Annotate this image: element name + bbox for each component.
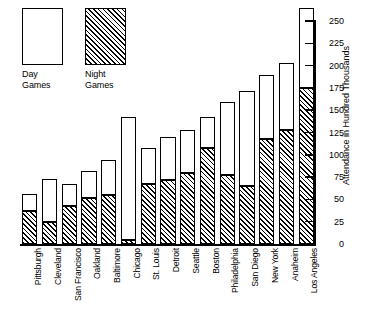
x-axis-label: Boston: [211, 248, 221, 274]
x-axis-label: New York: [270, 248, 280, 283]
x-axis-label: St. Louis: [151, 248, 161, 280]
x-axis-label: Baltimore: [112, 248, 122, 283]
y-tick-mark: [305, 243, 316, 245]
x-axis-label: Anaheim: [290, 248, 300, 281]
bar-segment-night-games: [101, 195, 116, 244]
y-tick-label: 0: [320, 239, 344, 249]
x-axis-label: Cleveland: [53, 248, 63, 285]
x-axis-label: San Diego: [250, 248, 260, 287]
x-axis-label: Chicago: [132, 248, 142, 278]
bar-segment-day-games: [62, 184, 77, 206]
bar-segment-night-games: [42, 222, 57, 244]
x-axis-label: San Francisco: [73, 248, 83, 301]
x-axis-label: Philadelphia: [230, 248, 240, 293]
bars-container: [20, 20, 316, 244]
bar-segment-day-games: [22, 194, 37, 212]
bar-segment-night-games: [259, 139, 274, 244]
bar-segment-day-games: [239, 91, 254, 186]
bar-group: [160, 137, 175, 244]
y-tick-label: 25: [320, 217, 344, 227]
bar-group: [42, 179, 57, 244]
x-axis-label: Detroit: [171, 248, 181, 272]
y-tick-mark: [305, 132, 316, 134]
y-tick-mark: [305, 20, 316, 22]
bar-group: [239, 91, 254, 244]
bar-segment-night-games: [141, 184, 156, 245]
bar-group: [22, 194, 37, 245]
bar-segment-day-games: [101, 160, 116, 196]
bar-segment-night-games: [200, 148, 215, 244]
y-axis-title: Attendance in Hundred Thousands: [341, 46, 351, 185]
x-axis-label: Los Angeles: [309, 248, 319, 293]
bar-segment-night-games: [180, 173, 195, 244]
bar-segment-night-games: [279, 130, 294, 244]
bar-group: [62, 184, 77, 245]
y-tick-mark: [305, 65, 316, 67]
bar-segment-day-games: [42, 179, 57, 222]
y-tick-label: 50: [320, 194, 344, 204]
bar-group: [81, 171, 96, 244]
y-tick-mark: [305, 199, 316, 201]
bar-group: [121, 117, 136, 245]
y-tick-mark: [305, 43, 316, 45]
y-tick-mark: [305, 87, 316, 89]
bar-segment-night-games: [62, 206, 77, 244]
bar-segment-day-games: [279, 63, 294, 130]
stacked-bar-chart: Day Games Night Games 025507510012515017…: [0, 0, 377, 317]
y-tick-mark: [305, 109, 316, 111]
plot-area: [20, 20, 316, 246]
x-axis-label: Oakland: [92, 248, 102, 279]
bar-segment-day-games: [259, 75, 274, 139]
bar-group: [101, 160, 116, 245]
bar-segment-day-games: [220, 102, 235, 175]
y-tick-mark: [305, 221, 316, 223]
x-axis-label: Pittsburgh: [33, 248, 43, 285]
x-axis-labels: PittsburghClevelandSan FranciscoOaklandB…: [20, 248, 316, 316]
bar-segment-night-games: [121, 240, 136, 244]
bar-group: [220, 102, 235, 245]
bar-group: [279, 63, 294, 244]
bar-group: [141, 148, 156, 244]
bar-segment-night-games: [160, 180, 175, 244]
bar-segment-night-games: [220, 175, 235, 245]
bar-segment-day-games: [141, 148, 156, 184]
y-tick-mark: [305, 154, 316, 156]
bar-segment-day-games: [121, 117, 136, 240]
bar-segment-night-games: [22, 211, 37, 244]
x-axis-label: Seattle: [191, 248, 201, 274]
bar-group: [259, 75, 274, 244]
bar-segment-day-games: [160, 137, 175, 180]
bar-segment-night-games: [239, 186, 254, 245]
bar-group: [180, 130, 195, 244]
y-tick-mark: [305, 176, 316, 178]
bar-segment-day-games: [180, 130, 195, 173]
bar-group: [200, 117, 215, 245]
y-tick-label: 250: [320, 16, 344, 26]
bar-segment-day-games: [81, 171, 96, 198]
x-axis-line: [20, 244, 316, 246]
bar-segment-night-games: [81, 198, 96, 244]
bar-segment-day-games: [200, 117, 215, 148]
